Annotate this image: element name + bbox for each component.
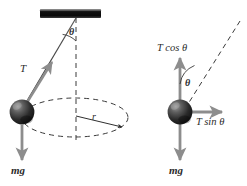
- label-weight-right: mg: [169, 165, 183, 176]
- string-direction-dashed: [188, 21, 240, 104]
- figure-canvas: [0, 0, 247, 186]
- pendulum-bob: [10, 100, 35, 125]
- label-radius: r: [92, 112, 96, 122]
- label-t-sin-theta: T sin θ: [196, 117, 224, 128]
- label-tension: T: [20, 63, 26, 74]
- label-theta-right: θ: [185, 78, 190, 88]
- label-theta-left: θ: [69, 27, 74, 37]
- ceiling-support: [40, 10, 101, 19]
- physics-figure: T θ r mg T cos θ θ T sin θ mg: [0, 0, 247, 186]
- tension-vector-arrow: [26, 62, 52, 104]
- radius-vector-arrow: [76, 116, 122, 127]
- free-body-bob: [168, 100, 193, 125]
- label-t-cos-theta: T cos θ: [157, 43, 187, 54]
- circular-path-ellipse: [22, 98, 128, 137]
- label-weight-left: mg: [11, 165, 25, 176]
